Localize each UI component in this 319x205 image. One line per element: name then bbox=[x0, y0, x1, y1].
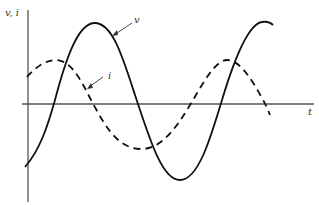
v-arrowhead-icon bbox=[112, 30, 118, 36]
voltage-curve bbox=[25, 22, 273, 180]
i-arrowhead-icon bbox=[87, 83, 93, 89]
waveform-plot: v, i v i t bbox=[0, 0, 319, 205]
v-curve-label: v bbox=[134, 14, 140, 25]
x-axis-label: t bbox=[308, 106, 313, 117]
i-curve-label: i bbox=[108, 70, 111, 81]
y-axis-label: v, i bbox=[5, 7, 19, 18]
waveform-diagram: v, i v i t bbox=[0, 0, 319, 205]
